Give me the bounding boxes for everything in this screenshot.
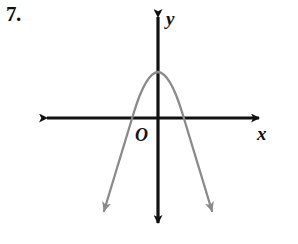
y-axis-label: y: [164, 8, 175, 29]
coordinate-plane-figure: y x O: [0, 0, 298, 244]
origin-label: O: [135, 125, 148, 145]
parabola-curve-left-arm: [104, 72, 158, 211]
x-axis-label: x: [256, 123, 267, 144]
parabola-curve-right-arm: [158, 72, 212, 211]
